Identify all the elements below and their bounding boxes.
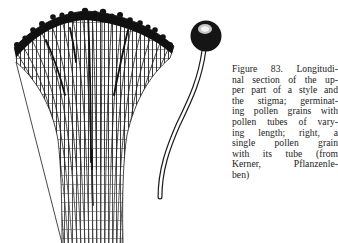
caption-line: Figure 83. Longitudi- [232, 64, 338, 75]
style-and-stigma-section [0, 0, 200, 243]
caption-line: ben) [232, 170, 338, 181]
caption-line: pollen tubes of vary- [232, 117, 338, 128]
figure-caption: Figure 83. Longitudi- nal section of the… [232, 64, 338, 181]
